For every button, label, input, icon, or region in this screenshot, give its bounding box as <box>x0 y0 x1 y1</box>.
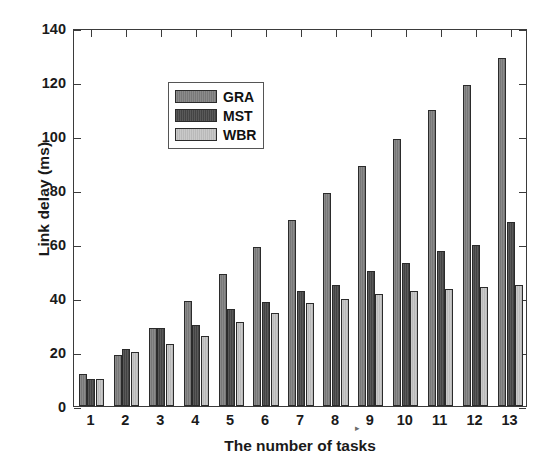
bar-wbr-10 <box>410 291 418 406</box>
bar-gra-10 <box>393 139 401 406</box>
bar-wbr-3 <box>166 344 174 406</box>
y-axis-tick-label: 140 <box>32 21 66 37</box>
bar-gra-4 <box>184 301 192 406</box>
bar-group <box>288 30 313 406</box>
bar-mst-1 <box>87 379 95 406</box>
bar-gra-11 <box>428 110 436 406</box>
bar-mst-12 <box>472 245 480 406</box>
y-axis-tick-label: 100 <box>32 129 66 145</box>
bar-mst-13 <box>507 222 515 406</box>
y-axis-tick <box>74 408 81 409</box>
bar-group <box>498 30 523 406</box>
bar-gra-6 <box>253 247 261 406</box>
x-axis-title: The number of tasks <box>73 437 527 455</box>
figure-canvas: Link delay (ms) 020406080100120140 GRA M… <box>0 0 555 476</box>
bar-wbr-2 <box>131 352 139 406</box>
bar-mst-5 <box>227 309 235 406</box>
x-axis-tick-label: 13 <box>490 412 530 428</box>
bar-wbr-13 <box>515 285 523 407</box>
plot-inner <box>74 30 526 406</box>
bar-gra-1 <box>79 374 87 406</box>
chart-legend: GRA MST WBR <box>168 82 264 149</box>
bar-mst-8 <box>332 285 340 407</box>
bar-gra-9 <box>358 166 366 406</box>
bar-mst-9 <box>367 271 375 406</box>
bar-group <box>393 30 418 406</box>
y-axis-tick-label: 60 <box>32 237 66 253</box>
bar-group <box>79 30 104 406</box>
bar-wbr-1 <box>96 379 104 406</box>
bar-gra-5 <box>219 274 227 406</box>
bar-gra-12 <box>463 85 471 406</box>
bar-mst-3 <box>157 328 165 406</box>
y-axis-tick-label: 20 <box>32 345 66 361</box>
bar-wbr-8 <box>341 299 349 406</box>
bar-group <box>323 30 348 406</box>
bar-wbr-6 <box>271 313 279 406</box>
bar-wbr-7 <box>306 303 314 406</box>
legend-swatch-mst <box>175 109 217 122</box>
bar-group <box>114 30 139 406</box>
y-axis-tick-label: 0 <box>32 399 66 415</box>
legend-entry-gra: GRA <box>175 88 256 105</box>
bar-gra-13 <box>498 58 506 406</box>
legend-entry-wbr: WBR <box>175 126 256 143</box>
y-axis-tick-labels: 020406080100120140 <box>28 0 66 476</box>
legend-swatch-gra <box>175 90 217 103</box>
bar-wbr-12 <box>480 287 488 406</box>
bar-wbr-11 <box>445 289 453 406</box>
bar-mst-2 <box>122 349 130 406</box>
bar-mst-11 <box>437 251 445 406</box>
bar-mst-10 <box>402 263 410 406</box>
bar-mst-6 <box>262 302 270 406</box>
bar-group <box>358 30 383 406</box>
bar-wbr-9 <box>375 294 383 406</box>
bar-gra-7 <box>288 220 296 406</box>
legend-label-gra: GRA <box>223 90 254 104</box>
legend-label-mst: MST <box>223 109 253 123</box>
bar-group <box>428 30 453 406</box>
y-axis-tick-label: 40 <box>32 291 66 307</box>
bar-gra-3 <box>149 328 157 406</box>
bar-gra-2 <box>114 355 122 406</box>
bar-group <box>463 30 488 406</box>
legend-entry-mst: MST <box>175 107 256 124</box>
y-axis-tick-label: 80 <box>32 183 66 199</box>
bar-mst-7 <box>297 291 305 406</box>
legend-swatch-wbr <box>175 128 217 141</box>
bar-gra-8 <box>323 193 331 406</box>
legend-label-wbr: WBR <box>223 128 256 142</box>
x-axis-tick-labels: 12345678910111213 <box>73 412 527 434</box>
bar-wbr-5 <box>236 322 244 406</box>
bar-wbr-4 <box>201 336 209 406</box>
bar-mst-4 <box>192 325 200 406</box>
plot-area: GRA MST WBR ▸ <box>73 29 527 407</box>
y-axis-tick-label: 120 <box>32 75 66 91</box>
y-axis-tick <box>519 408 526 409</box>
